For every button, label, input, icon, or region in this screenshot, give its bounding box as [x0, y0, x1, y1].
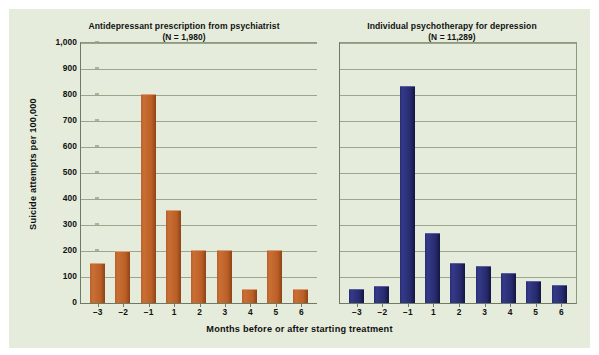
- bar-slot: [86, 43, 110, 303]
- bar[interactable]: [217, 250, 232, 303]
- x-tick-mark: [250, 303, 251, 307]
- y-tick-label: 300: [37, 219, 77, 229]
- bar-slot: [187, 43, 211, 303]
- x-tick-mark: [276, 303, 277, 307]
- panel-title-right: Individual psychotherapy for depression …: [327, 21, 577, 43]
- bar[interactable]: [552, 285, 567, 303]
- bar[interactable]: [425, 233, 440, 303]
- plot-area-right: −3−2−1123456: [339, 42, 577, 304]
- x-tick-mark: [536, 303, 537, 307]
- bar-slot: [421, 43, 445, 303]
- x-tick-mark: [98, 303, 99, 307]
- bar-slot: [263, 43, 287, 303]
- bar[interactable]: [242, 289, 257, 303]
- bar[interactable]: [115, 251, 130, 303]
- bar-slot: [471, 43, 495, 303]
- x-tick-mark: [301, 303, 302, 307]
- y-tick-label: 900: [37, 63, 77, 73]
- bar[interactable]: [141, 94, 156, 303]
- bar[interactable]: [293, 289, 308, 303]
- bar-slot: [136, 43, 160, 303]
- x-axis-title: Months before or after starting treatmen…: [9, 324, 590, 334]
- x-tick-mark: [225, 303, 226, 307]
- chart-figure-root: Antidepressant prescription from psychia…: [0, 0, 599, 355]
- y-axis-ticks: 01002003004005006007008009001,000: [29, 9, 77, 348]
- bar-slot: [370, 43, 394, 303]
- x-tick-mark: [561, 303, 562, 307]
- y-tick-label: 800: [37, 89, 77, 99]
- bar-slot: [111, 43, 135, 303]
- x-tick-mark: [433, 303, 434, 307]
- x-tick-mark: [123, 303, 124, 307]
- y-tick-label: 1,000: [37, 37, 77, 47]
- x-tick-mark: [149, 303, 150, 307]
- bar-slot: [238, 43, 262, 303]
- panel-title-left: Antidepressant prescription from psychia…: [49, 21, 319, 43]
- x-tick-mark: [408, 303, 409, 307]
- bar-slot: [345, 43, 369, 303]
- x-tick-mark: [459, 303, 460, 307]
- x-tick-mark: [200, 303, 201, 307]
- bar-slot: [547, 43, 571, 303]
- plot-area-left: −3−2−1123456: [80, 42, 317, 304]
- bar-slot: [497, 43, 521, 303]
- y-tick-label: 200: [37, 245, 77, 255]
- bar-slot: [446, 43, 470, 303]
- bar[interactable]: [400, 86, 415, 303]
- bar[interactable]: [191, 250, 206, 303]
- x-tick-mark: [357, 303, 358, 307]
- bar-slot: [212, 43, 236, 303]
- y-tick-label: 500: [37, 167, 77, 177]
- bar-group-left: [81, 43, 317, 303]
- x-tick-label: 6: [546, 307, 576, 317]
- bar[interactable]: [476, 266, 491, 303]
- x-tick-mark: [382, 303, 383, 307]
- bar-slot: [288, 43, 312, 303]
- y-tick-label: 0: [37, 297, 77, 307]
- x-tick-label: 6: [286, 307, 316, 317]
- bar-slot: [162, 43, 186, 303]
- bar[interactable]: [374, 286, 389, 303]
- bar[interactable]: [90, 263, 105, 303]
- bar[interactable]: [166, 210, 181, 303]
- panel-title-left-text: Antidepressant prescription from psychia…: [88, 21, 279, 31]
- bar[interactable]: [501, 273, 516, 303]
- bar[interactable]: [349, 289, 364, 303]
- bar-slot: [522, 43, 546, 303]
- x-tick-mark: [510, 303, 511, 307]
- x-tick-mark: [174, 303, 175, 307]
- x-tick-mark: [485, 303, 486, 307]
- bar[interactable]: [526, 281, 541, 303]
- y-tick-label: 600: [37, 141, 77, 151]
- figure-panel: Antidepressant prescription from psychia…: [9, 9, 590, 348]
- bar-slot: [395, 43, 419, 303]
- bar[interactable]: [267, 250, 282, 303]
- y-tick-label: 700: [37, 115, 77, 125]
- panel-title-right-text: Individual psychotherapy for depression: [367, 21, 537, 31]
- y-tick-label: 400: [37, 193, 77, 203]
- y-tick-label: 100: [37, 271, 77, 281]
- bar[interactable]: [450, 263, 465, 303]
- bar-group-right: [340, 43, 576, 303]
